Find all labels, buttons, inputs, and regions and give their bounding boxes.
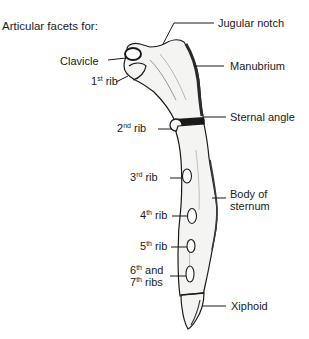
label-manubrium: Manubrium: [230, 60, 285, 72]
label-sternal-angle: Sternal angle: [230, 111, 295, 123]
label-xiphoid: Xiphoid: [231, 300, 268, 312]
label-rib6-7-line1: 6th and: [130, 264, 163, 276]
label-rib5: 5th rib: [140, 240, 167, 252]
rib4-facet: [188, 209, 197, 224]
sternum-diagram: Articular facets for: Clavicle 1st rib 2…: [0, 0, 309, 339]
sternum-illustration: [0, 0, 309, 339]
label-body-of-sternum-line1: Body of: [230, 188, 267, 200]
label-rib3: 3rd rib: [130, 171, 158, 183]
clavicle-facet: [125, 48, 141, 60]
label-rib6-7-line2: 7th ribs: [130, 276, 163, 288]
sternum-body-shape: [176, 124, 217, 296]
xiphoid-shape: [181, 293, 204, 329]
label-rib4: 4th rib: [140, 209, 167, 221]
rib3-facet: [183, 169, 192, 183]
label-body-of-sternum-line2: sternum: [230, 200, 270, 212]
diagram-title: Articular facets for:: [2, 20, 98, 32]
label-rib2: 2nd rib: [117, 122, 146, 134]
rib5-facet: [187, 240, 195, 253]
label-clavicle: Clavicle: [60, 55, 99, 67]
rib67-facet: [186, 266, 194, 282]
label-rib1: 1st rib: [91, 75, 118, 87]
label-jugular-notch: Jugular notch: [218, 17, 284, 29]
